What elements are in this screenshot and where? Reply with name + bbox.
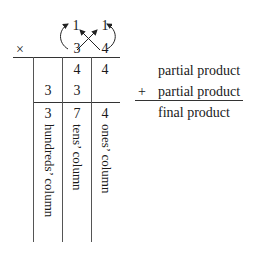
top-rule bbox=[13, 57, 120, 58]
bottom-left-digit: 3 bbox=[70, 42, 84, 56]
partial-product-label-2: partial product bbox=[158, 85, 240, 99]
row2-hundreds: 3 bbox=[41, 84, 55, 98]
cross-arrows-icon bbox=[55, 10, 125, 60]
tens-column-label: tens’ column bbox=[71, 124, 84, 191]
final-product-label: final product bbox=[158, 106, 230, 120]
row2-tens: 3 bbox=[70, 84, 84, 98]
top-left-carry: 1 bbox=[69, 19, 83, 33]
column-divider-3 bbox=[91, 57, 92, 242]
final-tens: 7 bbox=[70, 107, 84, 121]
bottom-right-digit: 4 bbox=[98, 42, 112, 56]
top-right-carry: 1 bbox=[98, 19, 112, 33]
ones-column-label: ones’ column bbox=[100, 124, 113, 193]
final-ones: 4 bbox=[98, 107, 112, 121]
plus-sign: + bbox=[138, 85, 146, 99]
partial-product-label-1: partial product bbox=[158, 64, 240, 78]
row1-ones: 4 bbox=[98, 63, 112, 77]
legend-sum-rule bbox=[135, 100, 243, 101]
final-hundreds: 3 bbox=[41, 107, 55, 121]
column-divider-1 bbox=[33, 57, 34, 242]
hundreds-column-label: hundreds’ column bbox=[43, 124, 56, 217]
column-divider-2 bbox=[62, 57, 63, 242]
sum-rule bbox=[33, 102, 120, 103]
multiply-sign: × bbox=[16, 43, 24, 57]
cross-multiply-diagram bbox=[55, 10, 125, 60]
row1-tens: 4 bbox=[70, 63, 84, 77]
